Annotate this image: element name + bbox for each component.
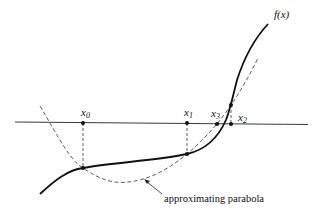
parabola-label: approximating parabola [164, 193, 264, 204]
x3-point [215, 122, 219, 126]
x0-label: x0 [80, 106, 90, 120]
x1-point [185, 121, 189, 125]
f-x2-point [229, 103, 233, 107]
function-label: f(x) [274, 8, 290, 21]
muller-method-diagram: x0 x1 x3 x2 f(x) approximating parabola [0, 0, 320, 215]
x1-label: x1 [183, 106, 193, 120]
f-x0-point [81, 166, 85, 170]
parabola-arrow [146, 181, 162, 194]
f-x1-point [185, 152, 189, 156]
x-axis [15, 122, 308, 125]
x3-label: x3 [210, 107, 220, 121]
function-curve [40, 24, 268, 194]
x0-point [81, 121, 85, 125]
x2-point [229, 122, 233, 126]
x2-label: x2 [237, 111, 247, 125]
